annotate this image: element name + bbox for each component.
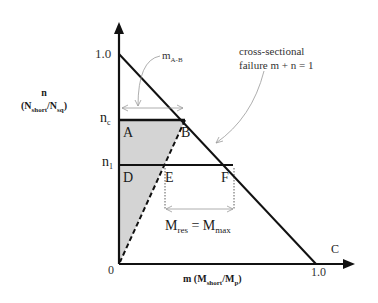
y-axis-arrow-icon (114, 22, 124, 34)
point-b-label: B (181, 126, 190, 140)
failure-annotation: cross-sectional failure m + n = 1 (239, 46, 313, 71)
x-axis-arrow-icon (343, 259, 355, 269)
mmax-subscript: max (215, 225, 231, 235)
mres-equals-mmax-label: Mres = Mmax (165, 219, 231, 235)
y-tick-1: 1.0 (95, 47, 111, 60)
mmax-symbol: M (203, 218, 215, 233)
x-axis-title: m (Mshort/Mp) (183, 274, 242, 287)
x-ratio-num: M (197, 273, 206, 284)
y-tick-nc: nc (100, 111, 111, 127)
x-ratio-den-sub: p (234, 279, 238, 287)
y-tick-n1-symbol: n (102, 154, 109, 169)
y-ratio-den-sub: sq (57, 106, 64, 114)
mres-symbol: M (165, 218, 177, 233)
x-ratio-num-sub: short (207, 279, 223, 287)
x-axis-symbol: m (183, 273, 191, 284)
y-axis-symbol: n (14, 88, 74, 98)
point-e-label: E (165, 171, 174, 185)
failure-annotation-line2: failure m + n = 1 (239, 60, 313, 71)
y-axis-ratio: (Nshort/Nsq) (14, 101, 74, 114)
point-a-label: A (123, 126, 133, 140)
m-ab-subscript: A-B (171, 56, 183, 64)
equals-sign: = (188, 218, 203, 233)
y-tick-n1: n1 (102, 155, 113, 171)
failure-annotation-line1: cross-sectional (239, 46, 313, 57)
point-d-label: D (123, 171, 133, 185)
point-c-label: C (331, 243, 339, 255)
m-ab-label: mA-B (162, 50, 183, 64)
y-ratio-num: N (24, 100, 31, 111)
point-f-label: F (221, 171, 229, 185)
m-ab-symbol: m (162, 49, 171, 61)
m-ab-leader-arrow (138, 56, 160, 106)
interaction-diagram-canvas (0, 0, 378, 303)
mres-subscript: res (177, 225, 188, 235)
y-ratio-num-sub: short (32, 106, 48, 114)
y-tick-nc-symbol: n (100, 110, 107, 125)
y-tick-nc-subscript: c (107, 118, 111, 127)
y-tick-origin: 0 (108, 264, 114, 276)
failure-leader-arrow (216, 71, 264, 143)
x-tick-1: 1.0 (311, 266, 326, 278)
y-tick-n1-subscript: 1 (109, 162, 113, 171)
y-ratio-den: N (50, 100, 57, 111)
y-axis-title: n (Nshort/Nsq) (14, 88, 74, 114)
shaded-region (119, 120, 185, 264)
